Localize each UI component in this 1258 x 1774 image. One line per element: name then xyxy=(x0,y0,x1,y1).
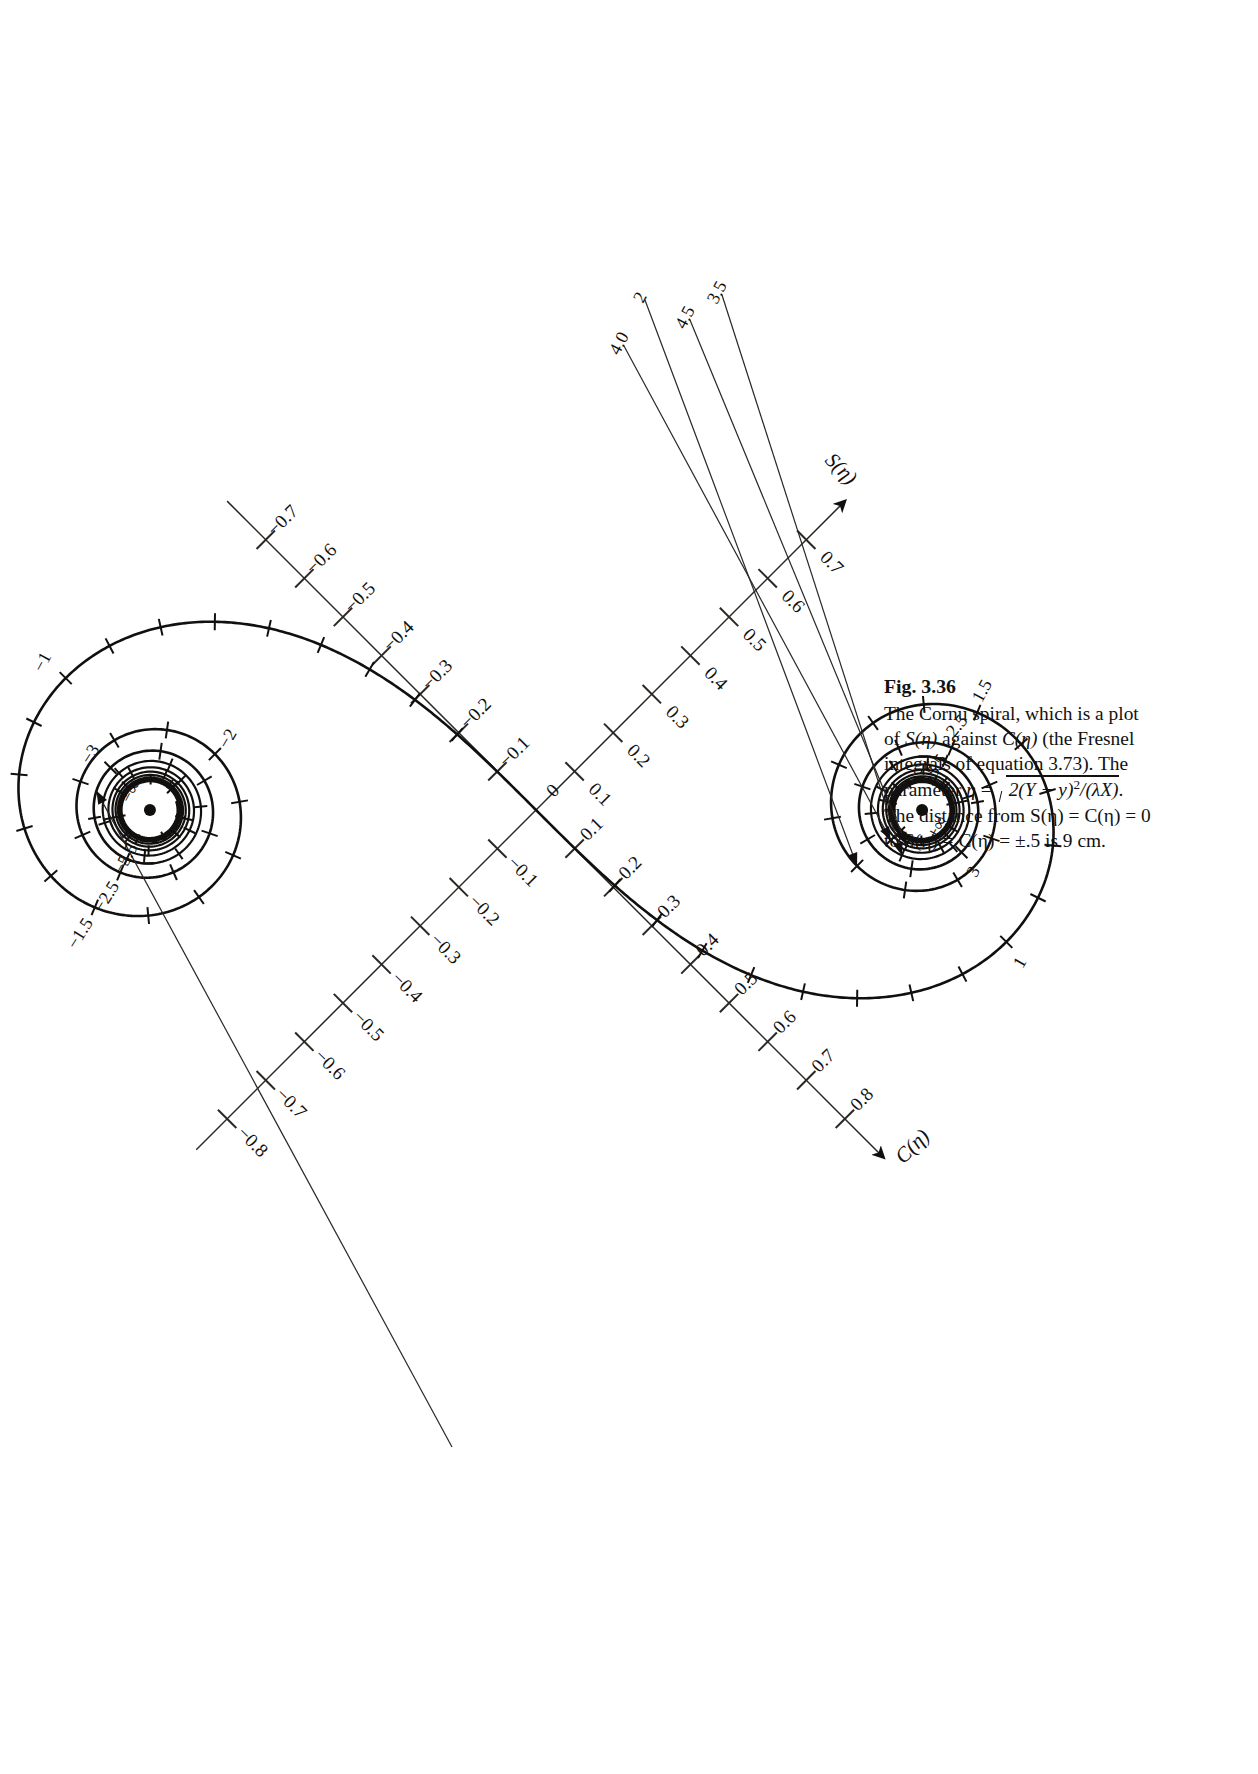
s-axis-label-m0.4: −0.4 xyxy=(388,967,428,1007)
cornu-spiral-figure: 0.80.70.60.50.40.30.20.10−0.1−0.2−0.3−0.… xyxy=(0,0,1258,1774)
s-axis-label-0.5: 0.5 xyxy=(739,624,771,656)
eta-label-2: 2 xyxy=(629,289,651,306)
caption-C-eta: C(η) xyxy=(1002,728,1037,749)
caption-equals: = xyxy=(976,780,997,801)
eta-tick xyxy=(110,733,119,748)
c-axis-label-0.2: 0.2 xyxy=(614,852,646,884)
cornu-spiral-plot: 0.80.70.60.50.40.30.20.10−0.1−0.2−0.3−0.… xyxy=(0,0,1258,1774)
c-axis-label-m0.7: −0.7 xyxy=(263,500,302,539)
leader-3.5 xyxy=(722,295,902,855)
caption-line-2-a: of xyxy=(884,728,905,749)
leader-4.0 xyxy=(624,346,891,840)
c-axis-label-m0.1: −0.1 xyxy=(494,732,533,771)
eta-tick xyxy=(197,776,212,785)
eta-label-m2: −2 xyxy=(214,725,241,752)
s-axis-label-m0.6: −0.6 xyxy=(311,1045,350,1084)
c-axis-label-m0.3: −0.3 xyxy=(417,655,456,694)
eta-label-3.5: 3.5 xyxy=(703,278,731,307)
eta-tick xyxy=(159,743,161,760)
leader-m3 xyxy=(96,791,452,1447)
s-axis-label-m0.7: −0.7 xyxy=(272,1083,311,1122)
c-axis-label-0.7: 0.7 xyxy=(807,1045,839,1077)
c-axis-label-m0.2: −0.2 xyxy=(456,693,495,732)
eta-label-3: 3 xyxy=(962,863,984,880)
s-axis-label-m0.3: −0.3 xyxy=(426,929,465,968)
eta-tick xyxy=(365,662,374,677)
c-axis-label-0.1: 0.1 xyxy=(575,813,607,845)
s-axis-label-m0.5: −0.5 xyxy=(349,1006,388,1045)
s-axis-label-0.2: 0.2 xyxy=(623,740,655,772)
eta-tick xyxy=(194,806,207,807)
eta-tick xyxy=(904,882,906,899)
caption-line-2-c: (the Fresnel xyxy=(1037,728,1134,749)
s-axis-label-0.7: 0.7 xyxy=(816,547,848,579)
eta-tick xyxy=(194,890,204,904)
eta-tick xyxy=(166,722,168,739)
eta-tick xyxy=(953,872,962,887)
s-axis-label-0.6: 0.6 xyxy=(778,585,810,617)
c-axis-label-m0.6: −0.6 xyxy=(301,539,340,578)
caption-period: . xyxy=(1119,780,1124,801)
plot-text-labels: 0.80.70.60.50.40.30.20.10−0.1−0.2−0.3−0.… xyxy=(29,278,1031,1169)
sqrt-expression: 2(Y − y)2/(λX) xyxy=(997,776,1119,803)
figure-caption: Fig. 3.36 The Cornu spiral, which is a p… xyxy=(884,674,1152,854)
c-axis-label-0: 0 xyxy=(542,779,564,801)
eta-tick xyxy=(147,907,149,924)
s-axis-label-m0.2: −0.2 xyxy=(465,890,504,929)
caption-line-5: The distance from S(η) = C(η) = 0 xyxy=(884,805,1151,826)
eta-leader-lines xyxy=(96,295,906,1447)
c-axis-name: C(η) xyxy=(890,1124,934,1168)
s-axis-label-m0.8: −0.8 xyxy=(233,1122,272,1161)
caption-line-4-pre: parameter xyxy=(884,780,966,801)
c-axis-label-0.3: 0.3 xyxy=(653,890,685,922)
c-axis-label-0.4: 0.4 xyxy=(691,928,723,960)
caption-text: The Cornu spiral, which is a plot of S(η… xyxy=(884,701,1152,854)
radicand-a: 2(Y − y) xyxy=(1009,780,1074,801)
s-axis-name: S(η) xyxy=(821,448,863,490)
eta-label-4.5: 4.5 xyxy=(671,303,699,332)
figure-number: Fig. 3.36 xyxy=(884,674,1152,700)
eta-tick xyxy=(175,849,182,860)
eta-tick xyxy=(88,817,101,819)
s-axis-label-0.4: 0.4 xyxy=(700,662,732,694)
s-axis-label-0.1: 0.1 xyxy=(585,778,617,810)
leader-4.5 xyxy=(690,320,907,845)
eta-label-m1.5: −1.5 xyxy=(63,914,97,952)
caption-line-3: integrals of equation 3.73). The xyxy=(884,753,1128,774)
caption-line-6: to S(η) = C(η) = ±.5 is 9 cm. xyxy=(884,830,1106,851)
eta-tick xyxy=(910,860,912,877)
c-axis-label-0.5: 0.5 xyxy=(730,967,762,999)
caption-line-2-b: against xyxy=(937,728,1002,749)
caption-eta-symbol: η xyxy=(966,780,976,801)
eta-label-m1: −1 xyxy=(29,649,56,675)
s-axis-label-m0.1: −0.1 xyxy=(504,852,543,891)
c-axis-label-0.8: 0.8 xyxy=(846,1083,878,1115)
caption-S-eta: S(η) xyxy=(905,728,937,749)
c-axis-label-m0.4: −0.4 xyxy=(379,616,419,656)
c-axis-label-0.6: 0.6 xyxy=(768,1006,800,1038)
convergence-dot-lower xyxy=(144,804,156,816)
s-axis-label-0.3: 0.3 xyxy=(662,701,694,733)
eta-tick xyxy=(860,835,875,844)
eta-tick xyxy=(868,716,878,730)
eta-tick xyxy=(410,693,420,707)
eta-label-m3: −3 xyxy=(76,741,103,768)
eta-tick xyxy=(11,774,28,776)
caption-line-1: The Cornu spiral, which is a plot xyxy=(884,703,1139,724)
eta-tick xyxy=(144,849,145,862)
eta-label-1: 1 xyxy=(1009,953,1031,971)
radicand-b: /(λX) xyxy=(1080,780,1119,801)
eta-tick xyxy=(116,815,126,817)
s-axis-line xyxy=(196,501,845,1150)
radicand-exponent: 2 xyxy=(1073,777,1080,792)
c-axis-label-m0.5: −0.5 xyxy=(340,578,379,617)
